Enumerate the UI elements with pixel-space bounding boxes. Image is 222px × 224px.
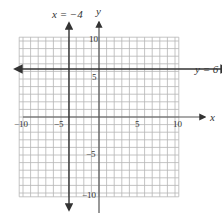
coordinate-plane: x y x = −4 y = 6 −10 −5 5 10 10 5 −5 −10 xyxy=(0,0,222,224)
y-tick-10: 10 xyxy=(89,34,99,44)
y-axis-label: y xyxy=(95,5,101,17)
y-tick-neg10: −10 xyxy=(82,190,97,200)
line-label-x-neg4: x = −4 xyxy=(51,8,83,20)
line-label-y6: y = 6 xyxy=(194,63,219,75)
x-axis-label: x xyxy=(209,111,215,123)
x-tick-neg10: −10 xyxy=(14,119,29,129)
y-tick-5: 5 xyxy=(92,72,97,82)
x-tick-10: 10 xyxy=(173,119,183,129)
x-tick-neg5: −5 xyxy=(54,119,64,129)
x-tick-5: 5 xyxy=(135,119,140,129)
y-tick-neg5: −5 xyxy=(86,149,96,159)
